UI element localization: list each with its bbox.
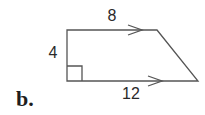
trapezoid-shape	[67, 30, 198, 81]
height-label: 4	[49, 44, 58, 61]
bottom-side-label: 12	[122, 85, 140, 102]
right-angle-marker	[67, 66, 82, 81]
part-label: b.	[16, 86, 34, 111]
top-side-label: 8	[108, 7, 117, 24]
trapezoid-diagram: 8 4 12 b.	[0, 0, 205, 115]
